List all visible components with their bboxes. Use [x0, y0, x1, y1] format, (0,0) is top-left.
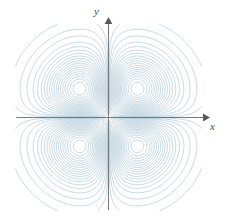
contour-plot-figure: y x: [0, 0, 229, 221]
contour-line: [56, 65, 98, 107]
contour-plot-canvas: [0, 0, 229, 221]
contour-line: [120, 129, 158, 167]
contour-line: [119, 65, 161, 107]
contour-line: [56, 210, 57, 211]
x-axis-arrowhead: [203, 114, 210, 122]
contour-line: [15, 24, 57, 66]
y-axis-arrowhead: [105, 17, 113, 24]
contour-line: [73, 140, 86, 153]
contour-line: [119, 128, 161, 170]
contour-line: [58, 67, 96, 105]
contour-line: [120, 67, 158, 105]
contour-line: [125, 134, 153, 162]
contour-line: [67, 76, 90, 99]
contour-line: [109, 29, 197, 117]
contour-line: [131, 140, 144, 153]
x-axis-label: x: [210, 121, 215, 132]
contour-line: [52, 126, 100, 174]
contour-line: [126, 135, 149, 158]
contour-line: [117, 126, 165, 174]
contour-line: [65, 134, 93, 162]
contour-line: [20, 29, 108, 117]
contour-line: [58, 129, 96, 167]
contour-line: [117, 61, 165, 109]
contour-line: [109, 118, 197, 206]
contour-line: [67, 135, 90, 158]
contour-line: [65, 74, 93, 102]
contour-line: [126, 76, 149, 99]
contour-line: [73, 82, 86, 95]
contour-line: [131, 82, 144, 95]
contour-line: [56, 128, 98, 170]
contour-line: [159, 168, 201, 210]
contour-line: [52, 61, 100, 109]
contour-line: [125, 74, 153, 102]
y-axis-label: y: [94, 6, 99, 17]
contour-line: [20, 118, 108, 206]
contour-line: [159, 24, 201, 66]
